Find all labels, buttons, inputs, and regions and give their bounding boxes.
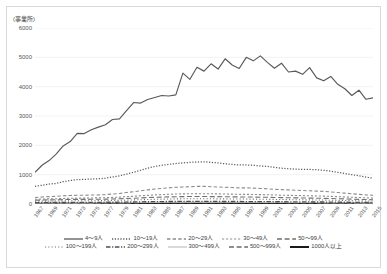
y-axis-tick-labels: 0100020003000400050006000 [8, 28, 32, 204]
plot-area [35, 28, 373, 204]
series-line [35, 56, 373, 172]
x-axis-tick-label: 2015 [370, 205, 382, 218]
x-axis-tick-label: 1981 [131, 205, 143, 218]
plot-wrapper [35, 28, 373, 204]
legend-item[interactable]: 100〜199人 [45, 244, 97, 250]
legend-line-swatch [106, 244, 125, 250]
legend-line-swatch [229, 244, 248, 250]
x-axis-tick-label: 1989 [187, 205, 199, 218]
x-axis-tick-labels: 1967196919711973197519771979198119831985… [35, 205, 373, 235]
legend-item[interactable]: 10〜19人 [112, 236, 158, 242]
legend-line-swatch [277, 236, 296, 242]
x-axis-tick-label: 1971 [61, 205, 73, 218]
x-axis-tick-label: 1979 [117, 205, 129, 218]
legend-label: 300〜499人 [189, 244, 220, 250]
legend-item[interactable]: 200〜299人 [106, 244, 158, 250]
legend-item[interactable]: 500〜999人 [229, 244, 281, 250]
legend-line-swatch [64, 236, 83, 242]
legend-line-swatch [290, 244, 309, 250]
legend-label: 10〜19人 [133, 236, 158, 242]
legend-item[interactable]: 300〜499人 [168, 244, 220, 250]
y-axis-tick-label: 4000 [19, 84, 32, 90]
x-axis-tick-label: 1969 [47, 205, 59, 218]
x-axis-tick-label: 2009 [328, 205, 340, 218]
legend-item[interactable]: 1000人以上 [290, 244, 342, 250]
y-axis-tick-label: 1000 [19, 172, 32, 178]
y-axis-unit-label: (事業所) [13, 14, 35, 23]
x-axis-tick-label: 2005 [300, 205, 312, 218]
x-axis-tick-label: 1985 [159, 205, 171, 218]
legend-label: 500〜999人 [250, 244, 281, 250]
legend-label: 1000人以上 [311, 244, 342, 250]
legend-row: 100〜199人200〜299人300〜499人500〜999人1000人以上 [45, 244, 342, 250]
legend-item[interactable]: 20〜29人 [167, 236, 213, 242]
x-axis-tick-label: 1999 [258, 205, 270, 218]
legend-item[interactable]: 4〜9人 [64, 236, 103, 242]
x-axis-tick-label: 2007 [314, 205, 326, 218]
x-axis-tick-label: 2003 [286, 205, 298, 218]
x-axis-tick-label: 1993 [216, 205, 228, 218]
x-axis-tick-label: 1973 [75, 205, 87, 218]
legend-item[interactable]: 50〜99人 [277, 236, 323, 242]
x-axis-tick-label: 2001 [272, 205, 284, 218]
series-line [35, 186, 373, 197]
x-axis-tick-label: 1975 [89, 205, 101, 218]
legend-row: 4〜9人10〜19人20〜29人30〜49人50〜99人 [64, 236, 323, 242]
y-axis-tick-label: 2000 [19, 142, 32, 148]
legend-label: 20〜29人 [188, 236, 213, 242]
x-axis-tick-label: 2013 [356, 205, 368, 218]
chart-legend: 4〜9人10〜19人20〜29人30〜49人50〜99人100〜199人200〜… [10, 236, 377, 264]
x-axis-tick-label: 1967 [32, 205, 44, 218]
legend-line-swatch [167, 236, 186, 242]
legend-line-swatch [222, 236, 241, 242]
y-axis-tick-label: 6000 [19, 25, 32, 31]
legend-item[interactable]: 30〜49人 [222, 236, 268, 242]
legend-label: 4〜9人 [85, 236, 103, 242]
y-axis-tick-label: 5000 [19, 54, 32, 60]
x-axis-tick-label: 1995 [230, 205, 242, 218]
legend-label: 50〜99人 [298, 236, 323, 242]
x-axis-tick-label: 1977 [103, 205, 115, 218]
legend-label: 30〜49人 [243, 236, 268, 242]
chart-figure: (事業所) 0100020003000400050006000 19671969… [0, 0, 387, 274]
series-line [35, 199, 373, 201]
legend-line-swatch [168, 244, 187, 250]
x-axis-tick-label: 1991 [201, 205, 213, 218]
x-axis-tick-label: 2011 [343, 205, 355, 218]
legend-line-swatch [45, 244, 64, 250]
x-axis-tick-label: 1983 [145, 205, 157, 218]
legend-line-swatch [112, 236, 131, 242]
legend-label: 100〜199人 [66, 244, 97, 250]
x-axis-tick-label: 1997 [244, 205, 256, 218]
legend-label: 200〜299人 [127, 244, 158, 250]
y-axis-tick-label: 3000 [19, 113, 32, 119]
y-axis-tick-label: 0 [29, 201, 32, 207]
series-line [35, 162, 373, 187]
x-axis-tick-label: 1987 [173, 205, 185, 218]
